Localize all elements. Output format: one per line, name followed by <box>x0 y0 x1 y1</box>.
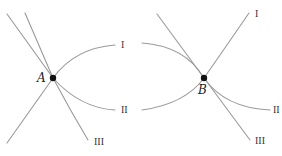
curve-a-i-label: I <box>121 39 124 50</box>
curve-b-i-label: I <box>255 8 258 19</box>
curve-a-iii <box>25 13 88 140</box>
point-b-label: B <box>197 83 207 97</box>
curve-a-i <box>53 45 115 78</box>
curve-a-ii-label: II <box>121 104 128 115</box>
curve-a-ii <box>53 78 115 110</box>
panel-b: B I II III <box>142 8 280 146</box>
curve-a-iii-label: III <box>94 136 104 147</box>
curve-b-iii-label: III <box>255 135 265 146</box>
line-a-left <box>7 14 53 143</box>
diagram-canvas: A I II III B I II III <box>0 0 282 156</box>
point-a-label: A <box>36 71 46 85</box>
panel-a: A I II III <box>7 13 128 147</box>
curve-b-i <box>142 13 249 110</box>
curve-b-ii-label: II <box>273 104 280 115</box>
point-b <box>201 75 207 81</box>
point-a <box>50 75 56 81</box>
